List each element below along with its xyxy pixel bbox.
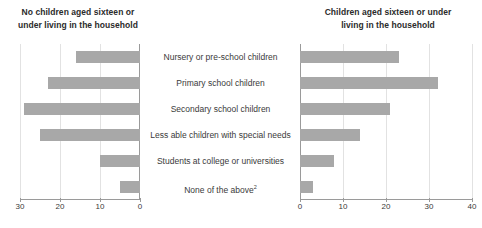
category-label: Students at college or universities — [141, 148, 300, 174]
bar-row — [300, 148, 472, 174]
bar-right-2 — [300, 103, 390, 115]
bar-left-4 — [100, 155, 140, 167]
tick-label-30: 30 — [425, 202, 434, 211]
bar-row — [300, 70, 472, 96]
tick-label-20: 20 — [382, 202, 391, 211]
category-label: Less able children with special needs — [141, 122, 300, 148]
bar-right-3 — [300, 129, 360, 141]
bar-row — [20, 148, 140, 174]
tick-label-20: 20 — [56, 202, 65, 211]
left-axis-ticks: 3020100 — [20, 202, 140, 216]
bar-row — [20, 174, 140, 200]
tick-label-0: 0 — [298, 202, 302, 211]
bar-right-5 — [300, 181, 313, 193]
butterfly-bar-chart: No children aged sixteen or under living… — [0, 0, 482, 228]
right-panel-title-line1: Children aged sixteen or under — [300, 6, 476, 19]
bar-left-3 — [40, 129, 140, 141]
bar-row — [300, 174, 472, 200]
tick-label-10: 10 — [339, 202, 348, 211]
category-label-column: Nursery or pre-school childrenPrimary sc… — [141, 44, 300, 200]
category-label: Primary school children — [141, 70, 300, 96]
tick-label-10: 10 — [96, 202, 105, 211]
right-plot-area — [300, 44, 472, 200]
right-panel-title-line2: living in the household — [300, 19, 476, 32]
bar-right-4 — [300, 155, 334, 167]
bar-row — [20, 122, 140, 148]
left-plot-area — [20, 44, 140, 200]
tick-label-0: 0 — [138, 202, 142, 211]
bar-row — [300, 96, 472, 122]
gridline-40 — [472, 44, 473, 200]
right-axis-ticks: 010203040 — [300, 202, 472, 216]
bar-row — [300, 44, 472, 70]
bar-row — [300, 122, 472, 148]
bar-right-1 — [300, 77, 438, 89]
bar-right-0 — [300, 51, 399, 63]
bar-row — [20, 44, 140, 70]
bar-left-1 — [48, 77, 140, 89]
left-panel-title-line1: No children aged sixteen or — [2, 6, 154, 19]
category-label: None of the above2 — [141, 174, 300, 200]
bar-left-2 — [24, 103, 140, 115]
tick-label-40: 40 — [468, 202, 477, 211]
left-panel-title: No children aged sixteen or under living… — [2, 6, 154, 31]
category-label: Secondary school children — [141, 96, 300, 122]
right-panel-title: Children aged sixteen or under living in… — [300, 6, 476, 31]
left-panel-title-line2: under living in the household — [2, 19, 154, 32]
footnote-marker: 2 — [254, 184, 257, 190]
bar-left-0 — [76, 51, 140, 63]
bar-left-5 — [120, 181, 140, 193]
category-label: Nursery or pre-school children — [141, 44, 300, 70]
bar-row — [20, 96, 140, 122]
tick-label-30: 30 — [16, 202, 25, 211]
bar-row — [20, 70, 140, 96]
